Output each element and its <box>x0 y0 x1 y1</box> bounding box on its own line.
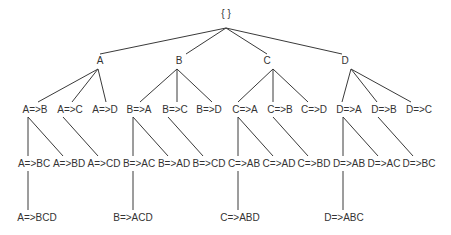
node-A_D: A=>D <box>92 104 118 116</box>
edge-D_B-to-D_BC <box>378 117 413 156</box>
node-B_AC: B=>AC <box>123 158 155 170</box>
edge-B-to-B_D <box>177 69 212 102</box>
tree-edges <box>0 0 451 235</box>
edge-root-to-D <box>226 28 342 54</box>
edge-B_A-to-B_AD <box>133 117 168 156</box>
node-B_C: B=>C <box>162 104 188 116</box>
node-D_BC: D=>BC <box>403 158 436 170</box>
node-C_ABD: C=>ABD <box>220 212 259 224</box>
edge-C_B-to-C_BD <box>273 117 308 156</box>
node-A_BCD: A=>BCD <box>17 212 56 224</box>
node-D_B: D=>B <box>371 104 397 116</box>
node-A_C: A=>C <box>57 104 83 116</box>
node-B_AD: B=>AD <box>158 158 190 170</box>
node-D_AB: D=>AB <box>333 158 365 170</box>
edge-B_C-to-B_CD <box>168 117 203 156</box>
edge-D-to-D_B <box>351 69 377 102</box>
node-B_A: B=>A <box>126 104 151 116</box>
edge-C_A-to-C_AD <box>238 117 273 156</box>
edge-C-to-C_D <box>273 69 308 102</box>
node-A_B: A=>B <box>22 104 47 116</box>
node-root: { } <box>221 8 230 20</box>
edge-A-to-A_C <box>72 69 98 102</box>
node-C_AB: C=>AB <box>228 158 260 170</box>
node-B_CD: B=>CD <box>193 158 226 170</box>
node-D: D <box>341 55 348 67</box>
node-C_A: C=>A <box>232 104 258 116</box>
node-D_AC: D=>AC <box>368 158 401 170</box>
node-C_BD: C=>BD <box>298 158 331 170</box>
node-C_B: C=>B <box>267 104 293 116</box>
edge-root-to-C <box>226 28 267 54</box>
edge-B-to-B_A <box>140 69 177 102</box>
edge-A-to-A_B <box>38 69 98 102</box>
node-C_D: C=>D <box>301 104 327 116</box>
node-C_AD: C=>AD <box>263 158 296 170</box>
node-B: B <box>176 55 183 67</box>
node-D_A: D=>A <box>336 104 362 116</box>
node-C: C <box>263 55 270 67</box>
node-A_BD: A=>BD <box>53 158 85 170</box>
node-D_ABC: D=>ABC <box>324 212 363 224</box>
edge-A_C-to-A_CD <box>63 117 98 156</box>
edge-D-to-D_C <box>351 69 411 102</box>
node-B_ACD: B=>ACD <box>113 212 152 224</box>
node-A_CD: A=>CD <box>88 158 121 170</box>
node-B_D: B=>D <box>196 104 222 116</box>
edge-A-to-A_D <box>98 69 106 102</box>
edge-D_A-to-D_AC <box>343 117 378 156</box>
node-A_BC: A=>BC <box>18 158 50 170</box>
edge-root-to-A <box>100 28 226 54</box>
edge-C-to-C_A <box>238 69 273 102</box>
node-A: A <box>97 55 104 67</box>
edge-D-to-D_A <box>342 69 351 102</box>
edge-A_B-to-A_BD <box>28 117 63 156</box>
node-D_C: D=>C <box>406 104 432 116</box>
